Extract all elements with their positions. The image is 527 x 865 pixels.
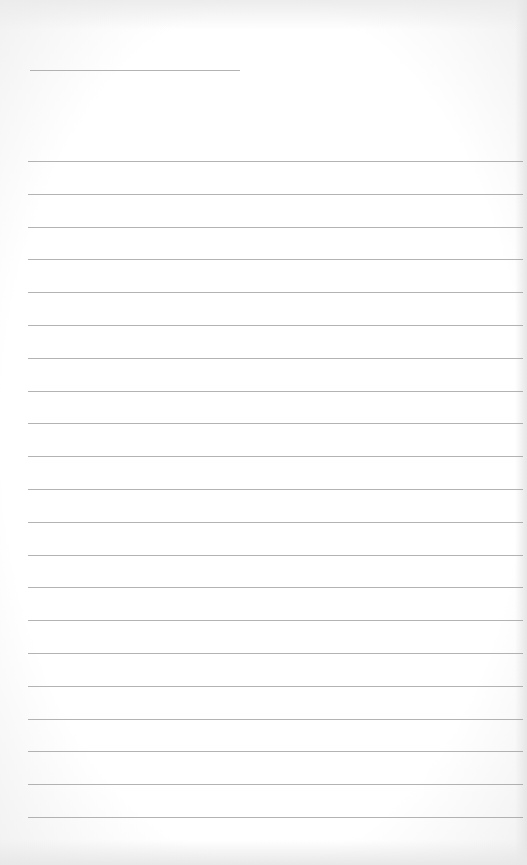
- paper-shadow-top: [0, 0, 527, 30]
- ruled-line: [28, 227, 523, 228]
- ruled-line: [28, 784, 523, 785]
- ruled-line: [28, 555, 523, 556]
- paper-shadow-right: [515, 0, 527, 865]
- ruled-line: [28, 686, 523, 687]
- ruled-line: [28, 325, 523, 326]
- ruled-line: [28, 423, 523, 424]
- ruled-line: [28, 161, 523, 162]
- ruled-line: [28, 653, 523, 654]
- ruled-line: [28, 391, 523, 392]
- ruled-line: [28, 358, 523, 359]
- ruled-line: [28, 817, 523, 818]
- ruled-line: [28, 456, 523, 457]
- ruled-line: [28, 292, 523, 293]
- paper-shadow-bottom: [0, 840, 527, 865]
- ruled-line: [28, 719, 523, 720]
- ruled-line: [28, 259, 523, 260]
- ruled-line: [28, 587, 523, 588]
- ruled-line: [28, 489, 523, 490]
- ruled-line: [28, 194, 523, 195]
- ruled-line: [28, 751, 523, 752]
- ruled-line: [28, 620, 523, 621]
- ruled-line: [28, 522, 523, 523]
- name-line: [30, 70, 240, 71]
